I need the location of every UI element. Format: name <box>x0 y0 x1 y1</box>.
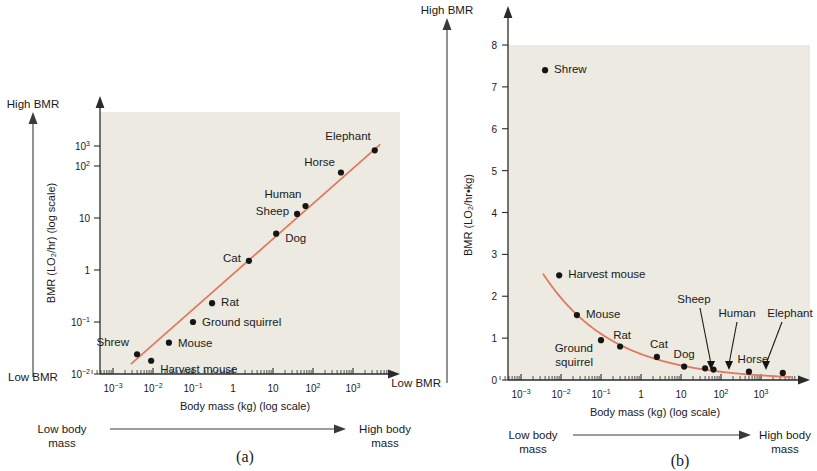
data-point <box>294 211 300 217</box>
panel-b-body-mass-guide-arrow <box>573 431 751 440</box>
panel-b-xtick-4: 10 <box>675 389 687 400</box>
panel-b-high-mass-label-line2: mass <box>771 443 799 455</box>
panel-b-ytick-2: 2 <box>491 291 497 302</box>
panel-b-high-bmr-label: High BMR <box>421 4 473 16</box>
panel-a-high-mass-label-line1: High body <box>359 423 411 435</box>
data-point <box>134 351 140 357</box>
data-point <box>780 370 786 376</box>
panel-a-bmr-guide-arrow <box>29 112 38 377</box>
panel-b-x-axis-title: Body mass (kg) (log scale) <box>590 406 720 418</box>
data-point <box>246 258 252 264</box>
panel-a-plot-background <box>100 112 400 374</box>
point-label: Mouse <box>178 337 213 349</box>
point-label: Cat <box>650 338 669 350</box>
panel-a-x-axis-title: Body mass (kg) (log scale) <box>180 400 310 412</box>
point-label: Harvest mouse <box>160 363 237 375</box>
panel-b-xtick-2: 10−1 <box>591 388 610 400</box>
panel-a-xtick-6: 103 <box>345 382 360 394</box>
panel-b-ytick-5: 5 <box>491 166 497 177</box>
panel-a-xtick-3: 1 <box>230 383 236 394</box>
panel-a-xtick-1: 10−2 <box>143 382 162 394</box>
data-point <box>654 354 660 360</box>
panel-a-low-mass-label-line1: Low body <box>37 423 86 435</box>
data-point <box>338 169 344 175</box>
panel-a-ytick-3: 10 <box>79 213 91 224</box>
point-label: Sheep <box>256 205 289 217</box>
panel-a-y-axis-title: BMR (LO₂/hr) (log scale) <box>45 183 57 303</box>
panel-b-ytick-7: 7 <box>491 82 497 93</box>
panel-b-ytick-8: 8 <box>491 40 497 51</box>
data-point <box>209 300 215 306</box>
point-label: Sheep <box>677 293 710 305</box>
data-point <box>273 231 279 237</box>
point-label: Dog <box>285 232 306 244</box>
panel-b-ytick-6: 6 <box>491 124 497 135</box>
panel-b-plot-background <box>508 45 810 380</box>
point-label: Horse <box>304 156 335 168</box>
bmr-body-mass-figure: High BMR Low BMR 10−2 10−1 1 10 102 103 … <box>0 0 817 471</box>
data-point <box>302 203 308 209</box>
panel-a-xtick-2: 10−1 <box>183 382 202 394</box>
panel-a-low-bmr-label: Low BMR <box>8 371 58 383</box>
data-point <box>702 365 708 371</box>
panel-a-high-mass-label-line2: mass <box>371 437 399 449</box>
panel-b-ytick-3: 3 <box>491 249 497 260</box>
point-label: Ground squirrel <box>202 316 281 328</box>
panel-a-ytick-0: 10−2 <box>71 368 90 380</box>
panel-b-y-axis-title: BMR (LO₂/hr•kg) <box>462 174 474 256</box>
panel-b-ytick-4: 4 <box>491 208 497 219</box>
point-label: Human <box>264 188 301 200</box>
panel-b-low-mass-label-line1: Low body <box>508 429 557 441</box>
point-label: Human <box>718 307 755 319</box>
panel-a: High BMR Low BMR 10−2 10−1 1 10 102 103 … <box>7 96 411 466</box>
panel-a-xtick-0: 10−3 <box>103 382 122 394</box>
data-point <box>148 358 154 364</box>
panel-a-high-bmr-label: High BMR <box>7 98 59 110</box>
panel-a-ytick-4: 102 <box>75 160 90 172</box>
figure-svg: High BMR Low BMR 10−2 10−1 1 10 102 103 … <box>0 0 817 471</box>
panel-b-high-mass-label-line1: High body <box>759 429 811 441</box>
data-point <box>746 369 752 375</box>
panel-a-caption: (a) <box>236 448 254 466</box>
panel-b-xtick-5: 102 <box>713 388 728 400</box>
panel-a-xtick-5: 102 <box>305 382 320 394</box>
point-label: Mouse <box>586 308 621 320</box>
panel-a-low-mass-label-line2: mass <box>48 437 76 449</box>
point-label: Dog <box>674 348 695 360</box>
data-point <box>542 67 548 73</box>
panel-b-low-bmr-label: Low BMR <box>391 377 441 389</box>
panel-b-xtick-0: 10−3 <box>511 388 530 400</box>
panel-b-ytick-1: 1 <box>491 333 497 344</box>
data-point <box>556 272 562 278</box>
panel-b: High BMR Low BMR 012345678 BMR (LO₂/hr•k… <box>391 4 813 470</box>
data-point <box>681 364 687 370</box>
data-point <box>190 319 196 325</box>
panel-b-xtick-1: 10−2 <box>551 388 570 400</box>
data-point <box>710 366 716 372</box>
panel-b-ytick-0: 0 <box>491 375 497 386</box>
point-label: Elephant <box>767 307 813 319</box>
point-label: Ground <box>555 342 593 354</box>
panel-a-ytick-2: 1 <box>84 265 90 276</box>
panel-a-xtick-4: 10 <box>267 383 279 394</box>
data-point <box>372 147 378 153</box>
panel-a-ytick-5: 103 <box>75 140 90 152</box>
data-point <box>598 337 604 343</box>
point-label: Cat <box>223 252 242 264</box>
panel-b-bmr-guide-arrow <box>443 18 452 383</box>
panel-b-xtick-6: 103 <box>753 388 768 400</box>
data-point <box>166 340 172 346</box>
point-label: Shrew <box>96 336 129 348</box>
point-label: Harvest mouse <box>568 268 645 280</box>
panel-b-caption: (b) <box>671 452 690 470</box>
panel-b-xtick-3: 1 <box>638 389 644 400</box>
point-label: Shrew <box>554 63 587 75</box>
panel-a-ytick-1: 10−1 <box>71 316 90 328</box>
data-point <box>574 312 580 318</box>
data-point <box>617 343 623 349</box>
point-label: Elephant <box>325 130 371 142</box>
point-label: Rat <box>613 329 632 341</box>
point-label: Rat <box>221 296 240 308</box>
panel-b-low-mass-label-line2: mass <box>519 443 547 455</box>
panel-a-body-mass-guide-arrow <box>110 425 346 434</box>
